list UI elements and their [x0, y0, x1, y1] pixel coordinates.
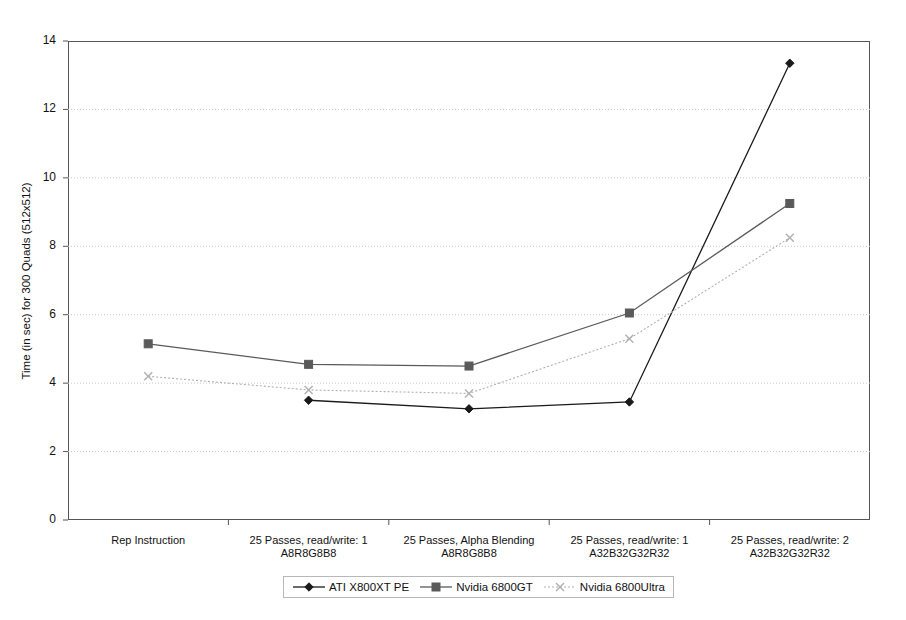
- y-axis-tick-label: 4: [28, 375, 56, 389]
- x-axis-tick-line: Rep Instruction: [68, 534, 228, 547]
- legend-item: Nvidia 6800Ultra: [543, 580, 665, 594]
- y-axis-tick-label: 6: [28, 307, 56, 321]
- x-axis-tick-line: A32B32G32R32: [549, 547, 709, 560]
- y-axis-tick-label: 14: [28, 33, 56, 47]
- x-axis-tick-label: Rep Instruction: [68, 534, 228, 547]
- y-axis-tick-label: 8: [28, 238, 56, 252]
- legend-marker-cross-icon: [543, 580, 577, 594]
- y-axis-tick-label: 10: [28, 170, 56, 184]
- legend-marker-diamond-icon: [292, 580, 326, 594]
- y-axis-title: Time (in sec) for 300 Quads (512x512): [20, 182, 32, 379]
- legend-item-label: Nvidia 6800Ultra: [580, 581, 665, 593]
- y-axis-tick-label: 0: [28, 512, 56, 526]
- legend-item-label: ATI X800XT PE: [329, 581, 409, 593]
- x-axis-tick-line: 25 Passes, Alpha Blending: [389, 534, 549, 547]
- legend-item: Nvidia 6800GT: [419, 580, 533, 594]
- line-chart: Time (in sec) for 300 Quads (512x512) 02…: [0, 0, 906, 620]
- legend-marker-square-icon: [419, 580, 453, 594]
- y-axis-tick-label: 2: [28, 444, 56, 458]
- x-axis-tick-line: 25 Passes, read/write: 2: [710, 534, 870, 547]
- x-axis-tick-label: 25 Passes, read/write: 1A8R8G8B8: [228, 534, 388, 560]
- x-axis-tick-label: 25 Passes, read/write: 2A32B32G32R32: [710, 534, 870, 560]
- x-axis-tick-line: A32B32G32R32: [710, 547, 870, 560]
- x-axis-tick-label: 25 Passes, read/write: 1A32B32G32R32: [549, 534, 709, 560]
- x-axis-tick-line: A8R8G8B8: [389, 547, 549, 560]
- legend-item-label: Nvidia 6800GT: [456, 581, 533, 593]
- x-axis-tick-line: 25 Passes, read/write: 1: [228, 534, 388, 547]
- y-axis-tick-label: 12: [28, 101, 56, 115]
- x-axis-tick-line: A8R8G8B8: [228, 547, 388, 560]
- plot-area: [68, 41, 870, 520]
- chart-legend: ATI X800XT PENvidia 6800GTNvidia 6800Ult…: [283, 576, 674, 598]
- x-axis-tick-label: 25 Passes, Alpha BlendingA8R8G8B8: [389, 534, 549, 560]
- legend-item: ATI X800XT PE: [292, 580, 409, 594]
- x-axis-tick-line: 25 Passes, read/write: 1: [549, 534, 709, 547]
